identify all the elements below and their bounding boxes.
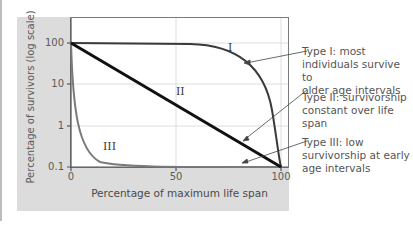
curve-label-type-1: I bbox=[228, 41, 232, 54]
x-axis-label: Percentage of maximum life span bbox=[70, 187, 289, 199]
annotation-type-3-line-2: survivorship at early bbox=[302, 149, 412, 162]
x-tick-0: 0 bbox=[56, 171, 86, 182]
annotation-type-3-line-1: Type III: low bbox=[302, 136, 412, 149]
annotation-type-1-line-2: individuals survive to bbox=[302, 58, 412, 84]
curve-label-type-2: II bbox=[176, 85, 185, 98]
annotation-type-1-line-1: Type I: most bbox=[302, 45, 412, 58]
annotation-type-3-line-3: age intervals bbox=[302, 162, 412, 175]
annotation-type-2: Type II: survivorship constant over life… bbox=[302, 91, 412, 130]
annotation-type-3: Type III: low survivorship at early age … bbox=[302, 136, 412, 175]
y-tick-10: 10 bbox=[30, 78, 64, 89]
y-tick-100: 100 bbox=[30, 37, 64, 48]
annotation-type-2-line-2: constant over life bbox=[302, 104, 412, 117]
x-tick-50: 50 bbox=[161, 171, 191, 182]
annotation-type-2-line-3: span bbox=[302, 117, 412, 130]
y-tick-1: 1 bbox=[30, 120, 64, 131]
x-tick-100: 100 bbox=[266, 171, 296, 182]
annotation-type-2-line-1: Type II: survivorship bbox=[302, 91, 412, 104]
annotation-type-1: Type I: most individuals survive to olde… bbox=[302, 45, 412, 97]
curve-label-type-3: III bbox=[103, 140, 116, 153]
